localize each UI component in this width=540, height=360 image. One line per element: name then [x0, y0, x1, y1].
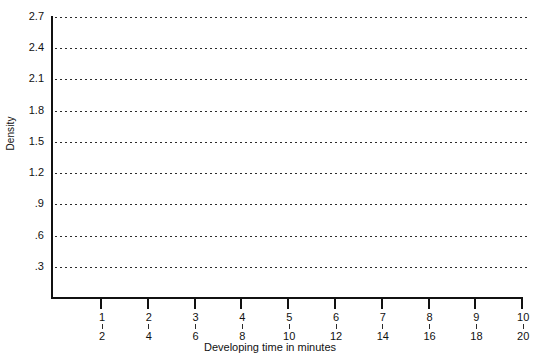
y-axis-tick-label: 1.8 [8, 105, 44, 116]
x-axis-label-separator-dash [336, 324, 337, 329]
x-axis-tick-mark [521, 299, 523, 309]
x-axis-tick-label: 816 [410, 311, 450, 342]
gridline [55, 236, 527, 237]
x-axis-tick-label-top: 5 [269, 311, 309, 323]
x-axis-tick-mark [428, 299, 430, 309]
y-axis-tick-label: .3 [8, 261, 44, 272]
y-axis-tick-label: .9 [8, 198, 44, 209]
y-axis-line [51, 16, 53, 299]
x-axis-tick-label-top: 1 [82, 311, 122, 323]
x-axis-tick-mark [287, 299, 289, 309]
x-axis-label-separator-dash [289, 324, 290, 329]
x-axis-label-separator-dash [148, 324, 149, 329]
x-axis-tick-label: 510 [269, 311, 309, 342]
x-axis-tick-mark [334, 299, 336, 309]
x-axis-tick-label: 12 [82, 311, 122, 342]
gridline [55, 79, 527, 80]
x-axis-label-separator-dash [102, 324, 103, 329]
x-axis-title: Developing time in minutes [0, 341, 540, 353]
x-axis-tick-mark [147, 299, 149, 309]
y-axis-tick-label: 2.1 [8, 73, 44, 84]
density-developing-time-chart: Density 2.72.42.11.81.51.2.9.6.3 1224364… [0, 0, 540, 360]
x-axis-tick-label: 1020 [503, 311, 540, 342]
x-axis-tick-label: 612 [316, 311, 356, 342]
x-axis-tick-label: 714 [363, 311, 403, 342]
x-axis-label-separator-dash [382, 324, 383, 329]
gridline [55, 267, 527, 268]
x-axis-tick-label: 48 [222, 311, 262, 342]
x-axis-label-separator-dash [195, 324, 196, 329]
x-axis-label-separator-dash [429, 324, 430, 329]
x-axis-tick-label: 24 [129, 311, 169, 342]
x-axis-tick-label-top: 9 [456, 311, 496, 323]
x-axis-tick-mark [381, 299, 383, 309]
x-axis-tick-label: 36 [176, 311, 216, 342]
x-axis-tick-label: 918 [456, 311, 496, 342]
x-axis-tick-label-top: 3 [176, 311, 216, 323]
x-axis-tick-label-top: 7 [363, 311, 403, 323]
x-axis-tick-mark [240, 299, 242, 309]
x-axis-tick-mark [194, 299, 196, 309]
y-axis-tick-label: 1.2 [8, 167, 44, 178]
gridline [55, 17, 527, 18]
x-axis-label-separator-dash [523, 324, 524, 329]
x-axis-tick-label-top: 8 [410, 311, 450, 323]
gridline [55, 142, 527, 143]
gridline [55, 48, 527, 49]
x-axis-label-separator-dash [476, 324, 477, 329]
y-axis-tick-label: 2.4 [8, 42, 44, 53]
x-axis-tick-label-top: 10 [503, 311, 540, 323]
gridline [55, 204, 527, 205]
y-axis-tick-label: 1.5 [8, 136, 44, 147]
y-axis-tick-label: 2.7 [8, 11, 44, 22]
x-axis-tick-mark [100, 299, 102, 309]
gridline [55, 111, 527, 112]
x-axis-tick-mark [474, 299, 476, 309]
x-axis-label-separator-dash [242, 324, 243, 329]
y-axis-tick-label: .6 [8, 230, 44, 241]
x-axis-tick-label-top: 2 [129, 311, 169, 323]
gridline [55, 173, 527, 174]
x-axis-tick-label-top: 6 [316, 311, 356, 323]
x-axis-tick-label-top: 4 [222, 311, 262, 323]
